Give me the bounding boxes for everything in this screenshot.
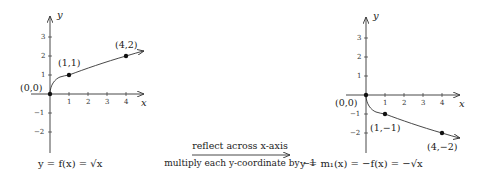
left-y-tick-1: 1 [41,71,45,79]
left-point-1-1 [67,73,71,77]
right-x-axis-label: x [459,98,465,109]
left-y-tick-3: 3 [41,33,45,41]
right-y-tick-3: 3 [357,34,361,42]
left-caption: y = f(x) = √x [38,158,102,169]
right-x-tick-1: 1 [383,99,387,107]
right-point-4-neg2 [440,131,444,135]
right-y-tick-2: 2 [357,53,361,61]
left-y-tick-neg2: −2 [34,128,44,136]
right-y-axis-label: y [372,10,379,21]
left-y-tick-neg1: −1 [34,109,44,117]
left-x-axis-label: x [141,97,147,108]
right-x-tick-4: 4 [440,99,445,107]
right-x-tick-2: 2 [402,99,406,107]
left-x-tick-1: 1 [67,98,71,106]
left-x-tick-3: 3 [105,98,109,106]
right-label-1-neg1: (1,−1) [370,122,400,133]
left-y-tick-2: 2 [41,52,45,60]
left-label-4-2: (4,2) [115,39,138,50]
left-point-origin [48,92,52,96]
right-y-tick-neg1: −1 [350,110,360,118]
transform-top-text: reflect across x-axis [165,140,315,151]
right-point-origin [364,93,368,97]
right-graph: y x 1 2 3 4 1 2 3 −1 −2 (0,0) (1,−1) (4,… [335,10,465,153]
right-point-1-neg1 [383,112,387,116]
right-label-4-neg2: (4,−2) [427,141,457,152]
left-x-tick-2: 2 [86,98,90,106]
right-label-origin: (0,0) [335,97,358,108]
left-x-tick-4: 4 [124,98,129,106]
right-y-tick-1: 1 [357,72,361,80]
left-y-axis-label: y [56,9,63,20]
left-graph: y x 1 2 3 4 1 2 3 −1 −2 (0,0) (1,1) (4,2… [20,9,147,153]
right-x-tick-3: 3 [421,99,425,107]
left-point-4-2 [124,54,128,58]
transform-bottom-text: multiply each y-coordinate by −1 [155,158,325,168]
right-y-tick-neg2: −2 [350,129,360,137]
left-label-1-1: (1,1) [58,57,81,68]
left-label-origin: (0,0) [20,82,43,93]
